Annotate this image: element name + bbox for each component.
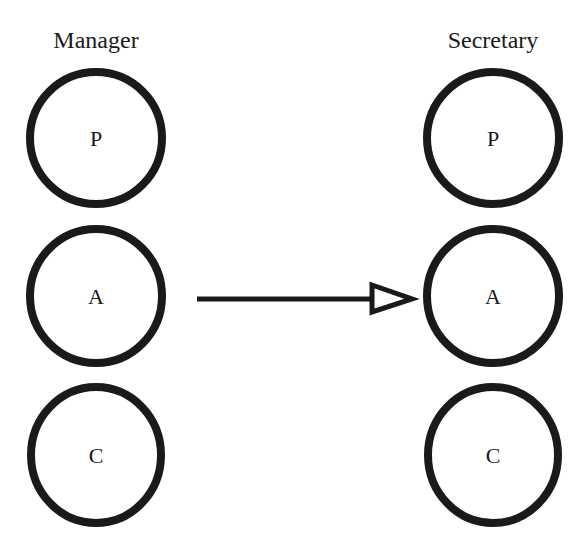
secretary-node-p: P (427, 72, 559, 204)
manager-column: Manager P A C (30, 27, 162, 523)
manager-node-c: C (31, 387, 161, 523)
secretary-node-a: A (427, 229, 559, 363)
manager-node-p: P (30, 72, 162, 204)
manager-child-label: C (89, 443, 104, 468)
arrow-head-icon (372, 285, 412, 312)
manager-adult-label: A (88, 284, 104, 309)
secretary-title: Secretary (448, 27, 539, 53)
transaction-arrow (197, 285, 412, 312)
manager-parent-label: P (90, 126, 102, 151)
secretary-child-label: C (486, 443, 501, 468)
secretary-adult-label: A (485, 284, 501, 309)
manager-node-a: A (30, 229, 162, 363)
secretary-column: Secretary P A C (427, 27, 559, 523)
secretary-parent-label: P (487, 126, 499, 151)
manager-title: Manager (53, 27, 138, 53)
transaction-diagram: Manager P A C Secretary P A C (0, 0, 586, 541)
secretary-node-c: C (428, 387, 558, 523)
